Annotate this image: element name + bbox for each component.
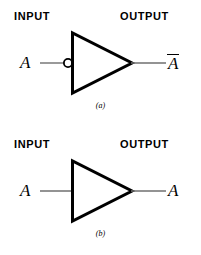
figure-page: INPUT OUTPUT A A (a) INPUT OUTPUT A xyxy=(0,0,201,255)
figure-a-output-signal-label: A xyxy=(168,54,178,72)
figure-b-input-signal-label: A xyxy=(20,182,30,199)
figure-b-output-header: OUTPUT xyxy=(120,138,169,150)
figure-b-output-signal-label: A xyxy=(168,182,178,199)
figure-a-input-signal-label: A xyxy=(20,54,30,71)
figure-a-inverter: INPUT OUTPUT A A (a) xyxy=(0,0,201,127)
figure-b-buffer: INPUT OUTPUT A A (b) xyxy=(0,128,201,255)
figure-a-output-header: OUTPUT xyxy=(120,10,169,22)
figure-b-input-header: INPUT xyxy=(14,138,50,150)
figure-a-output-signal-text: A xyxy=(168,54,178,72)
figure-a-input-header: INPUT xyxy=(14,10,50,22)
figure-a-caption: (a) xyxy=(0,101,201,110)
figure-b-caption: (b) xyxy=(0,229,201,238)
figure-b-triangle-body xyxy=(73,161,133,221)
figure-a-triangle-body xyxy=(73,33,133,93)
figure-a-inversion-bubble-icon xyxy=(64,59,72,67)
